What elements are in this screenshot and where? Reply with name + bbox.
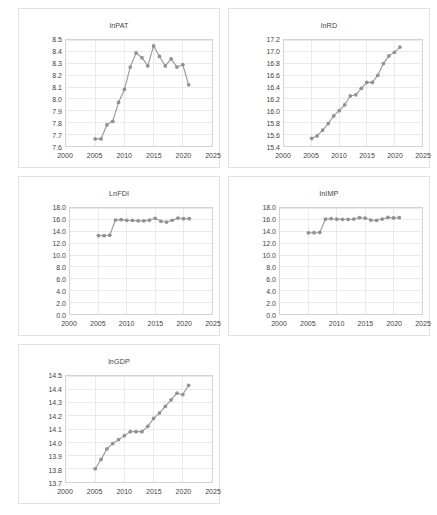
y-axis-tick-label: 6.0 [38,276,66,283]
data-point-marker [99,458,103,462]
chart-panel-lngdp: lnGDP13.713.813.914.014.114.214.314.414.… [18,344,220,504]
x-axis-tick-label: 2000 [57,152,73,159]
y-axis-tick-label: 2.0 [248,300,276,307]
x-axis-tick-label: 2010 [116,488,132,495]
data-point-marker [114,218,118,222]
y-axis-tick-label: 16.6 [252,72,280,79]
y-axis-tick-label: 18.0 [248,204,276,211]
data-point-marker [117,101,121,105]
x-axis-tick-label: 2005 [303,152,319,159]
data-point-marker [159,219,163,223]
plot-area [65,375,213,483]
data-point-marker [119,218,123,222]
y-axis-tick-label: 18.0 [38,204,66,211]
data-point-marker [398,45,402,49]
data-point-marker [181,63,185,67]
data-point-marker [108,233,112,237]
x-axis-tick-label: 2000 [275,152,291,159]
y-axis-tick-label: 6.0 [248,276,276,283]
series-line [95,385,188,468]
data-point-marker [128,430,132,434]
data-point-marker [312,231,316,235]
x-axis-tick-label: 2000 [57,488,73,495]
y-axis-tick-label: 12.0 [248,240,276,247]
data-point-marker [123,434,127,438]
y-axis-tick-label: 17.2 [252,36,280,43]
x-axis-tick-label: 2015 [146,152,162,159]
data-point-marker [337,109,341,113]
y-axis-tick-label: 14.3 [38,399,62,406]
data-point-marker [343,103,347,107]
y-axis-tick-label: 16.4 [252,84,280,91]
y-axis-tick-label: 13.9 [38,453,62,460]
data-point-marker [376,73,380,77]
data-point-marker [310,136,314,140]
data-point-marker [324,217,328,221]
y-axis-tick-label: 14.1 [38,426,62,433]
y-axis-tick-label: 14.0 [38,228,66,235]
y-axis-tick-label: 8.2 [38,72,62,79]
x-axis-tick-label: 2015 [358,320,374,327]
data-point-marker [365,81,369,85]
data-point-marker [175,65,179,69]
data-point-marker [329,217,333,221]
data-point-marker [134,51,138,55]
data-point-marker [102,234,106,238]
y-axis-tick-label: 8.0 [38,96,62,103]
data-point-marker [386,216,390,220]
chart-title: lnGDP [19,357,219,366]
plot-area [283,39,423,147]
data-point-marker [136,219,140,223]
data-point-marker [153,216,157,220]
y-axis-tick-label: 10.0 [38,252,66,259]
x-axis-tick-label: 2010 [119,320,135,327]
data-point-marker [125,219,129,223]
data-point-marker [105,123,109,127]
data-point-marker [363,216,367,220]
data-point-marker [169,398,173,402]
y-axis-tick-label: 8.4 [38,48,62,55]
chart-title: LnFDI [19,189,219,198]
x-axis-tick-label: 2000 [61,320,77,327]
y-axis-tick-label: 10.0 [248,252,276,259]
chart-panel-lnpat: lnPAT7.67.77.87.98.08.18.28.38.48.520002… [18,8,220,168]
data-point-marker [99,137,103,141]
data-point-marker [352,217,356,221]
data-point-marker [128,65,132,69]
data-point-marker [131,219,135,223]
data-point-marker [341,217,345,221]
x-axis-tick-label: 2020 [176,152,192,159]
data-point-marker [397,216,401,220]
x-axis-tick-label: 2025 [415,152,431,159]
y-axis-tick-label: 8.0 [248,264,276,271]
series-line [95,46,188,139]
y-axis-tick-label: 7.9 [38,108,62,115]
data-point-marker [370,81,374,85]
y-axis-tick-label: 16.0 [252,108,280,115]
data-point-marker [140,430,144,434]
data-point-marker [187,83,191,87]
data-point-marker [117,438,121,442]
y-axis-tick-label: 8.0 [38,264,66,271]
y-axis-tick-label: 15.4 [252,144,280,151]
x-axis-tick-label: 2025 [415,320,431,327]
data-point-marker [111,119,115,123]
plot-area [69,207,213,315]
series-line [312,47,400,138]
chart-title: lnRD [229,21,429,30]
data-point-marker [393,51,397,55]
y-axis-tick-label: 16.0 [38,216,66,223]
data-point-marker [142,219,146,223]
data-point-marker [97,234,101,238]
y-axis-tick-label: 13.8 [38,466,62,473]
y-axis-tick-label: 4.0 [248,288,276,295]
plot-area [279,207,423,315]
data-point-marker [93,137,97,141]
y-axis-tick-label: 14.0 [38,439,62,446]
x-axis-tick-label: 2025 [205,320,221,327]
y-axis-tick-label: 7.6 [38,144,62,151]
data-point-marker [332,114,336,118]
y-axis-tick-label: 8.1 [38,84,62,91]
data-point-marker [170,218,174,222]
y-axis-tick-label: 16.2 [252,96,280,103]
